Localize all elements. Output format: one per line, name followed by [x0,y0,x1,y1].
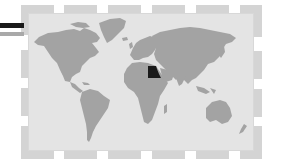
greenland [99,18,126,43]
australia [206,100,232,124]
map-graphic [0,0,283,164]
caribbean [82,82,90,85]
uk [129,42,133,49]
madagascar [164,104,167,114]
southeast-asia [196,86,216,94]
world-map-svg [0,0,283,164]
arctic-islands [70,22,90,28]
iceland [122,37,128,41]
south-america [80,89,110,142]
central-america [70,82,83,93]
india [176,70,186,86]
new-zealand [239,124,247,134]
north-america [34,28,100,82]
